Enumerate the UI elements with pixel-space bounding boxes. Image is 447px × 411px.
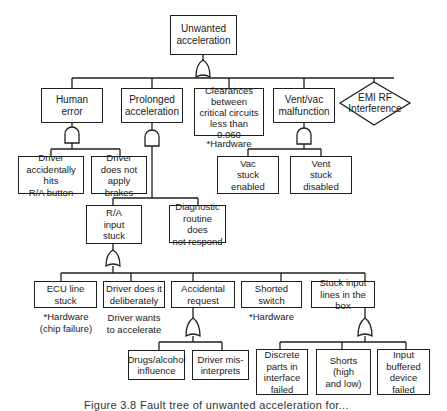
note-hardware-shorted: *Hardware — [241, 311, 302, 323]
event-clearances: Clearances between critical circuits les… — [194, 88, 264, 136]
note-hardware-chip: *Hardware (chip failure) — [30, 311, 102, 335]
or-gate-icon — [186, 318, 200, 336]
event-shorted-switch: Shorted switch — [241, 281, 302, 308]
event-stuck-input-lines: Stuck input lines in the box — [311, 281, 375, 308]
event-driver-no-brakes: Driver does not apply brakes — [91, 156, 147, 194]
note-hardware-clearances: *Hardware — [194, 138, 264, 150]
and-gate-icon — [297, 128, 311, 144]
figure-caption: Figure 3.8 Fault tree of unwanted accele… — [84, 399, 349, 411]
event-input-buffered-failed: Input buffered device failed — [377, 349, 430, 395]
event-driver-misinterprets: Driver mis- interprets — [192, 350, 249, 380]
note-driver-wants: Driver wants to accelerate — [100, 312, 168, 336]
or-gate-icon — [106, 250, 120, 266]
and-gate-icon — [145, 130, 159, 146]
event-ecu-line-stuck: ECU line stuck — [34, 281, 97, 308]
event-prolonged-acceleration: Prolonged acceleration — [121, 88, 183, 123]
or-gate-icon — [196, 60, 210, 77]
event-accidental-request: Accidental request — [171, 281, 235, 308]
and-gate-icon — [65, 127, 79, 143]
event-emi-rf-interference: EMI RF Interference — [345, 92, 405, 114]
event-shorts-high-low: Shorts (high and low) — [316, 349, 371, 395]
or-gate-icon — [358, 318, 372, 336]
event-driver-hits-ra: Driver accidentally hits R/A button — [18, 156, 84, 194]
event-drugs-alcohol: Drugs/alcohol influence — [128, 350, 185, 380]
event-diagnostic-routine: Diagnostic routine does not respond — [169, 205, 226, 243]
event-discrete-parts-failed: Discrete parts in interface failed — [256, 349, 308, 395]
event-driver-deliberate: Driver does it deliberately — [103, 281, 165, 308]
event-ventvac-malfunction: Vent/vac malfunction — [273, 88, 335, 123]
event-human-error: Human error — [41, 88, 103, 123]
event-vent-stuck: Vent stuck disabled — [290, 156, 352, 194]
top-event-unwanted-acceleration: Unwanted acceleration — [170, 15, 237, 55]
event-vac-stuck: Vac stuck enabled — [217, 156, 279, 194]
event-ra-input-stuck: R/A input stuck — [86, 205, 142, 244]
